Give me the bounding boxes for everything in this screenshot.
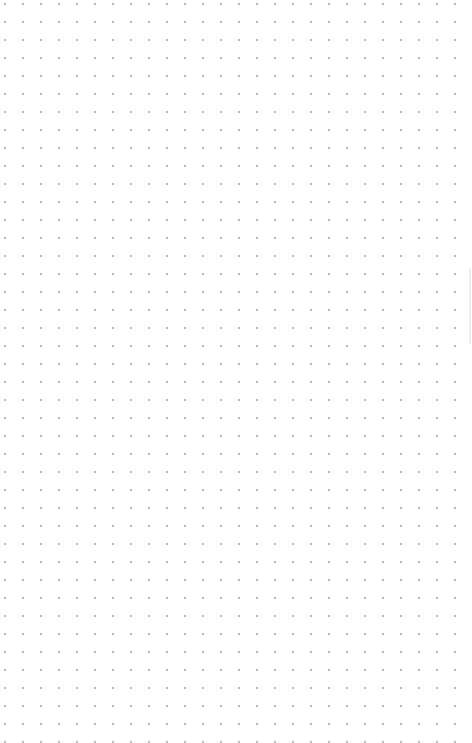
dot-grid-canvas[interactable]: [0, 0, 472, 743]
scrollbar-thumb[interactable]: [469, 268, 471, 344]
vertical-scrollbar[interactable]: [468, 0, 472, 743]
